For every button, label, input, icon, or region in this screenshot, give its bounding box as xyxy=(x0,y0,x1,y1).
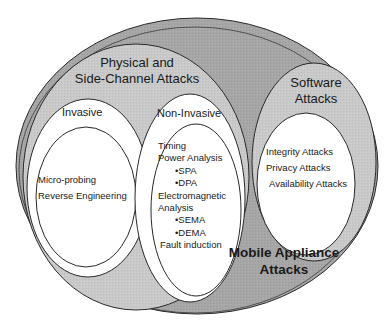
attack-taxonomy-diagram: Physical and Side-Channel Attacks Invasi… xyxy=(0,0,386,324)
mobile-title-line1: Mobile Appliance xyxy=(226,246,342,260)
invasive-item: Reverse Engineering xyxy=(38,188,127,204)
non-invasive-item-sema: •SEMA xyxy=(155,214,226,226)
non-invasive-item-power-analysis: Power Analysis xyxy=(155,152,226,164)
mobile-title-line2: Attacks xyxy=(226,263,342,277)
software-item-integrity: Integrity Attacks xyxy=(266,144,347,160)
physical-title-line1: Physical and xyxy=(62,56,212,69)
software-item-availability: Availability Attacks xyxy=(266,176,347,192)
invasive-items-list: Micro-probing Reverse Engineering xyxy=(38,172,127,204)
software-title-line2: Attacks xyxy=(276,92,356,105)
non-invasive-item-dema: •DEMA xyxy=(155,227,226,239)
non-invasive-item-fault-induction: Fault induction xyxy=(155,239,226,251)
invasive-label: Invasive xyxy=(62,107,102,118)
non-invasive-items-list: Timing Power Analysis •SPA •DPA Electrom… xyxy=(155,140,226,252)
software-title-line1: Software xyxy=(276,76,356,89)
software-attacks-title: Software Attacks xyxy=(276,76,356,105)
non-invasive-item-spa: •SPA xyxy=(155,165,226,177)
non-invasive-item-dpa: •DPA xyxy=(155,177,226,189)
mobile-appliance-attacks-title: Mobile Appliance Attacks xyxy=(226,246,342,276)
software-item-privacy: Privacy Attacks xyxy=(266,160,347,176)
invasive-item: Micro-probing xyxy=(38,172,127,188)
non-invasive-item-analysis: Analysis xyxy=(155,202,226,214)
physical-title-line2: Side-Channel Attacks xyxy=(62,72,212,85)
software-items-list: Integrity Attacks Privacy Attacks Availa… xyxy=(266,144,347,192)
non-invasive-label: Non-Invasive xyxy=(157,108,221,119)
non-invasive-item-electromagnetic: Electromagnetic xyxy=(155,190,226,202)
non-invasive-item-timing: Timing xyxy=(155,140,226,152)
physical-side-channel-title: Physical and Side-Channel Attacks xyxy=(62,56,212,85)
